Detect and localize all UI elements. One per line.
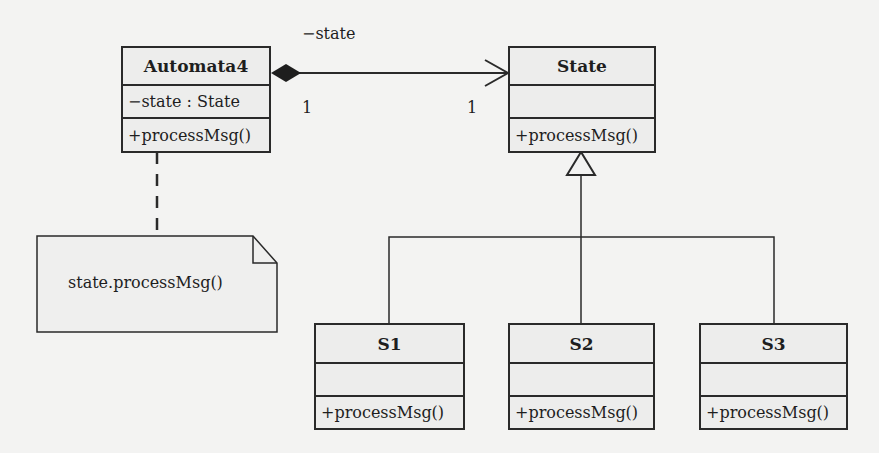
class-s1[interactable]: S1 +processMsg()	[314, 323, 465, 430]
class-name: State	[510, 48, 654, 86]
class-attribute: −state : State	[123, 86, 269, 119]
target-multiplicity-label: 1	[467, 98, 477, 117]
class-state[interactable]: State +processMsg()	[508, 46, 656, 153]
composition-diamond-icon	[271, 64, 301, 82]
class-operation: +processMsg()	[123, 119, 269, 151]
source-multiplicity-label: 1	[302, 98, 312, 117]
class-s3[interactable]: S3 +processMsg()	[699, 323, 848, 430]
association-role-label: −state	[302, 24, 355, 43]
note-text: state.processMsg()	[68, 273, 223, 292]
class-attributes-empty	[510, 364, 653, 397]
class-operation: +processMsg()	[316, 397, 463, 428]
class-attributes-empty	[316, 364, 463, 397]
class-attributes-empty	[510, 86, 654, 119]
generalization-triangle-icon	[567, 152, 595, 175]
class-s2[interactable]: S2 +processMsg()	[508, 323, 655, 430]
class-operation: +processMsg()	[510, 119, 654, 151]
class-operation: +processMsg()	[510, 397, 653, 428]
class-name: S2	[510, 325, 653, 364]
class-name: Automata4	[123, 48, 269, 86]
class-name: S1	[316, 325, 463, 364]
class-name: S3	[701, 325, 846, 364]
class-automata4[interactable]: Automata4 −state : State +processMsg()	[121, 46, 271, 153]
class-attributes-empty	[701, 364, 846, 397]
class-operation: +processMsg()	[701, 397, 846, 428]
